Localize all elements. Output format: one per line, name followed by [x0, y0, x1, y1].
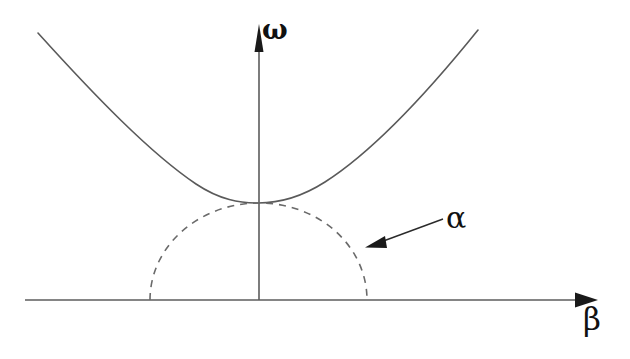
- omega-axis-label: ω: [262, 16, 288, 43]
- dispersion-diagram-figure: ω β α: [0, 0, 630, 359]
- alpha-pointer-line: [378, 219, 443, 243]
- diagram-canvas: [0, 0, 630, 359]
- alpha-pointer-arrowhead-icon: [365, 236, 387, 248]
- phase-constant-curve: [38, 30, 478, 203]
- alpha-annotation-label: α: [446, 203, 466, 233]
- beta-axis-label: β: [583, 304, 601, 335]
